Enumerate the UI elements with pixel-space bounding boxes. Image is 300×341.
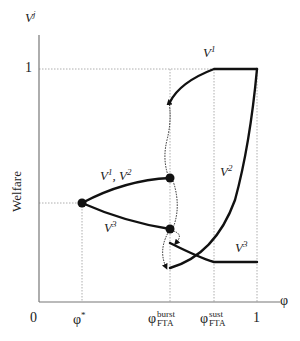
y-tick-one: 1 — [25, 61, 32, 75]
curve-label-v2-right: V2 — [220, 164, 232, 178]
curve-label-v3-right: V3 — [235, 240, 247, 254]
x-tick-phistar: φ* — [73, 311, 86, 327]
arrow-to-v1 — [165, 102, 170, 178]
curve-label-v3-left: V3 — [104, 220, 116, 234]
welfare-diagram — [0, 0, 300, 341]
x-tick-sust: φ sustFTA — [200, 310, 225, 328]
curve-v3-pre — [82, 203, 170, 229]
x-axis-symbol: φ — [280, 294, 288, 308]
point-burst-v3 — [166, 225, 175, 234]
y-axis-top-label: Vj — [25, 10, 35, 24]
curve-label-v1-top: V1 — [203, 45, 215, 59]
point-phistar — [78, 199, 87, 208]
x-tick-zero: 0 — [30, 311, 37, 325]
reference-lines — [39, 69, 257, 302]
x-tick-burst: φ burstFTA — [148, 310, 175, 328]
arrow-to-v3 — [173, 231, 179, 243]
curve-label-v1-v2: V1, V2 — [100, 168, 131, 182]
x-tick-one: 1 — [253, 311, 260, 325]
arrow-v1v2-down — [172, 178, 177, 228]
point-burst-v1v2 — [166, 174, 175, 183]
arrow-to-v2 — [163, 231, 169, 267]
curve-v1-post — [170, 69, 257, 102]
y-axis-title: Welfare — [10, 171, 23, 212]
